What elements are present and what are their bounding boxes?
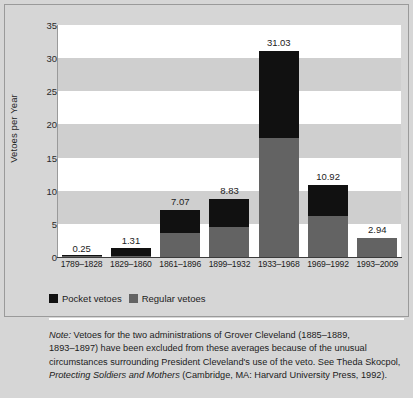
segment-pocket-vetoes (160, 210, 200, 233)
chart-frame: 35 30 25 20 15 10 5 0 Vetoes per Year 0.… (4, 4, 409, 317)
x-tick-label: 1829–1860 (106, 259, 155, 269)
x-tick-label: 1899–1932 (205, 259, 254, 269)
bar-1861-1896[interactable] (160, 210, 200, 257)
bar-value-label: 2.94 (353, 224, 402, 235)
segment-regular-vetoes (111, 256, 151, 257)
bar-slot: 0.25 (57, 25, 106, 257)
bar-slot: 2.94 (353, 25, 402, 257)
legend-label: Pocket vetoes (62, 293, 122, 304)
x-tick-label: 1861–1896 (156, 259, 205, 269)
bar-slot: 31.03 (254, 25, 303, 257)
bar-value-label: 10.92 (303, 171, 352, 182)
bar-slot: 8.83 (205, 25, 254, 257)
bar-value-label: 7.07 (156, 196, 205, 207)
bar-slot: 1.31 (106, 25, 155, 257)
legend-swatch-icon (129, 294, 138, 303)
bar-value-label: 8.83 (205, 185, 254, 196)
figure-container: 35 30 25 20 15 10 5 0 Vetoes per Year 0.… (0, 0, 413, 398)
segment-regular-vetoes (160, 233, 200, 257)
x-axis-labels: 1789–1828 1829–1860 1861–1896 1899–1932 … (57, 259, 402, 269)
x-axis-line (57, 257, 402, 258)
note-line-1: Vetoes for the two administrations of Gr… (71, 330, 350, 340)
bar-1899-1932[interactable] (209, 198, 249, 257)
x-tick-label: 1933–1968 (254, 259, 303, 269)
bar-1933-1968[interactable] (259, 51, 299, 257)
x-tick-label: 1969–1992 (303, 259, 352, 269)
note-line-2: 1893–1897) have been excluded from these… (49, 343, 367, 353)
bar-1969-1992[interactable] (308, 185, 348, 257)
segment-pocket-vetoes (111, 248, 151, 256)
segment-pocket-vetoes (308, 185, 348, 216)
segment-regular-vetoes (62, 256, 102, 257)
legend-label: Regular vetoes (142, 293, 206, 304)
segment-pocket-vetoes (209, 199, 249, 228)
bar-1789-1828[interactable] (62, 255, 102, 257)
bar-slot: 10.92 (303, 25, 352, 257)
note-prefix: Note: (49, 330, 71, 340)
y-tick-label: 5 (11, 218, 57, 229)
note-line-4-tail: (Cambridge, MA: Harvard University Press… (180, 370, 387, 380)
bar-1829-1860[interactable] (111, 248, 151, 257)
legend-item-pocket-vetoes: Pocket vetoes (49, 293, 122, 304)
segment-pocket-vetoes (259, 51, 299, 137)
legend-swatch-icon (49, 294, 58, 303)
note-italic-title: Protecting Soldiers and Mothers (49, 370, 180, 380)
x-tick-label: 1993–2009 (353, 259, 402, 269)
legend-item-regular-vetoes: Regular vetoes (129, 293, 206, 304)
bar-value-label: 1.31 (106, 235, 155, 246)
segment-regular-vetoes (308, 216, 348, 257)
x-tick-label: 1789–1828 (57, 259, 106, 269)
segment-regular-vetoes (209, 227, 249, 257)
bar-value-label: 31.03 (254, 37, 303, 48)
bar-group: 0.25 1.31 7.07 (57, 25, 402, 257)
note-line-3: circumstances surrounding President Clev… (49, 357, 400, 367)
bar-1993-2009[interactable] (357, 238, 397, 257)
y-axis-title: Vetoes per Year (8, 59, 19, 199)
figure-note: Note: Vetoes for the two administrations… (49, 329, 411, 383)
chart-legend: Pocket vetoes Regular vetoes (49, 293, 206, 304)
bar-value-label: 0.25 (57, 243, 106, 254)
bar-slot: 7.07 (156, 25, 205, 257)
segment-regular-vetoes (259, 138, 299, 257)
note-divider (49, 318, 404, 320)
y-tick-label: 0 (11, 252, 57, 263)
y-tick-label: 35 (11, 20, 57, 31)
segment-regular-vetoes (357, 238, 397, 257)
